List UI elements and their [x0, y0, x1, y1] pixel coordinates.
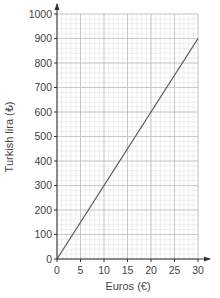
svg-text:20: 20 [145, 264, 157, 276]
svg-text:400: 400 [34, 155, 52, 167]
grid-major [57, 14, 198, 259]
svg-text:5: 5 [78, 264, 84, 276]
svg-text:100: 100 [34, 228, 52, 240]
svg-text:15: 15 [122, 264, 134, 276]
svg-text:900: 900 [34, 32, 52, 44]
conversion-chart: 01002003004005006007008009001000 0510152… [0, 0, 220, 298]
svg-text:30: 30 [192, 264, 204, 276]
svg-text:600: 600 [34, 106, 52, 118]
svg-text:1000: 1000 [29, 8, 53, 20]
svg-text:200: 200 [34, 204, 52, 216]
svg-text:300: 300 [34, 179, 52, 191]
axes [55, 3, 212, 262]
svg-text:0: 0 [54, 264, 60, 276]
y-axis-label: Turkish lira (₺) [3, 102, 15, 173]
svg-text:10: 10 [98, 264, 110, 276]
svg-text:0: 0 [46, 253, 52, 265]
x-axis-label: Euros (€) [105, 280, 150, 292]
x-axis-ticks: 051015202530 [54, 259, 204, 276]
svg-text:25: 25 [169, 264, 181, 276]
svg-text:700: 700 [34, 81, 52, 93]
svg-text:500: 500 [34, 130, 52, 142]
y-axis-ticks: 01002003004005006007008009001000 [29, 8, 57, 265]
svg-text:800: 800 [34, 57, 52, 69]
